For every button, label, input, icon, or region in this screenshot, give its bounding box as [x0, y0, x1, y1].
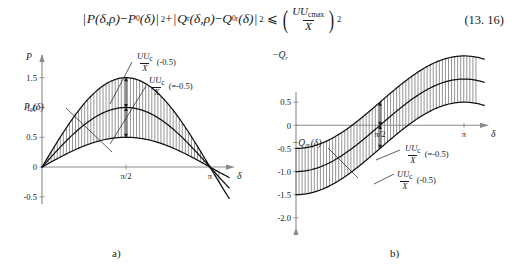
x-tick-label: π [462, 129, 467, 139]
caption-b: b) [390, 247, 399, 259]
annotation-num-text: UU [137, 51, 149, 61]
numerator-subscript: cmax [308, 10, 324, 19]
y-tick-label: 0 [287, 121, 291, 131]
caption-a: a) [112, 247, 121, 259]
y-tick-label: 0 [33, 162, 37, 172]
x-axis-label: δ [237, 170, 242, 181]
annotation-value: (-0.5) [416, 175, 436, 185]
equation-expression: | P (δ,ρ) − P0(δ) |2 + | Qr(δ,ρ) − Q0r(δ… [82, 6, 341, 32]
symbol-P0: P [128, 11, 136, 27]
P0-args: (δ) [140, 11, 155, 27]
annotation-numerator: UUc [403, 144, 423, 155]
minus-2: − [215, 11, 223, 27]
exponent-3: 2 [336, 14, 341, 24]
annotation-value: (-0.5) [156, 57, 176, 67]
y-tick-label: -1.5 [277, 190, 291, 200]
annotation-num-text: UU [397, 169, 409, 179]
minus-1: − [120, 11, 128, 27]
equation-row: | P (δ,ρ) − P0(δ) |2 + | Qr(δ,ρ) − Q0r(δ… [0, 4, 512, 40]
curve-label: P₀(δ) [23, 102, 44, 113]
annotation-denominator: X [140, 63, 149, 73]
y-tick-label: -2.0 [277, 213, 291, 223]
curve-P0(delta) [42, 107, 229, 187]
annotation-num-subscript: c [409, 172, 412, 181]
y-tick-label: 1.5 [26, 73, 37, 83]
annotation-upper-gap-b: UUc X (=-0.5) [402, 144, 449, 165]
annotation-numerator: UUc [147, 76, 167, 87]
annotation-value: (=-0.5) [168, 81, 193, 91]
annotation-num-text: UU [405, 143, 417, 153]
plus-sign: + [165, 11, 173, 27]
y-tick-label: 0.5 [26, 132, 37, 142]
annotation-denominator: X [152, 87, 161, 97]
annotation-fraction: UUc X [395, 170, 415, 191]
Q-args: (δ,ρ) [190, 11, 215, 27]
x-tick-label: π/2 [120, 171, 131, 181]
annotation-num-subscript: c [417, 146, 420, 155]
y-axis-label: −Qr [272, 49, 288, 61]
x-axis-label: δ [491, 128, 496, 139]
fraction-denominator: X [303, 20, 314, 32]
y-tick-label: -1.0 [277, 167, 291, 177]
numerator-text: UU [292, 5, 308, 17]
fraction-numerator: UUcmax [290, 6, 326, 20]
P-args: (δ,ρ) [95, 11, 120, 27]
chart-a-svg: 1.51.00.50-0.5π/2πPδP₀(δ) [6, 44, 250, 244]
chart-a-axes [39, 54, 235, 204]
annotation-fraction: UUc X [147, 76, 167, 97]
figure-page: | P (δ,ρ) − P0(δ) |2 + | Qr(δ,ρ) − Q0r(δ… [0, 0, 512, 270]
symbol-P: P [87, 11, 95, 27]
y-tick-label: -0.5 [277, 144, 291, 154]
annotation-num-subscript: c [149, 54, 152, 63]
annotation-fraction: UUc X [403, 144, 423, 165]
chart-b-tick-labels: -2.0-1.5-1.0-0.500.5π/2π−Qrδ−Q₀ᵣ(δ) [272, 49, 496, 223]
less-than-or-equal-sign: ⩽ [264, 11, 281, 27]
annotation-upper-gap-a: UUc X (-0.5) [134, 52, 176, 73]
annotation-denominator: X [408, 155, 417, 165]
annotation-num-subscript: c [161, 78, 164, 87]
annotation-lower-gap-b: UUc X (-0.5) [394, 170, 436, 191]
symbol-Q0r: Q [222, 11, 232, 27]
chart-a-tick-labels: 1.51.00.50-0.5π/2πPδP₀(δ) [23, 51, 242, 202]
annotation-fraction: UUc X [135, 52, 155, 73]
chart-b-svg: -2.0-1.5-1.0-0.500.5π/2π−Qrδ−Q₀ᵣ(δ) [248, 44, 510, 244]
annotation-numerator: UUc [135, 52, 155, 63]
equation-number: (13. 16) [464, 13, 504, 28]
chart-b-container: -2.0-1.5-1.0-0.500.5π/2π−Qrδ−Q₀ᵣ(δ) UUc … [248, 44, 510, 244]
annotation-numerator: UUc [395, 170, 415, 181]
symbol-Q: Q [177, 11, 187, 27]
x-tick-label: π [208, 171, 213, 181]
fraction-UUcmax-over-X: UUcmax X [290, 6, 326, 32]
annotation-lower-gap-a: UUc X (=-0.5) [146, 76, 193, 97]
chart-b-axes [293, 92, 489, 235]
annotation-value: (=-0.5) [424, 149, 449, 159]
chart-a-curves [42, 78, 229, 199]
y-tick-label: -0.5 [23, 192, 37, 202]
y-tick-label: 0.5 [280, 97, 291, 107]
Q0r-args: (δ) [238, 11, 253, 27]
y-axis-label: P [25, 51, 32, 62]
annotation-num-text: UU [149, 75, 161, 85]
chart-a-container: 1.51.00.50-0.5π/2πPδP₀(δ) UUc X (-0.5) U… [6, 44, 250, 244]
annotation-denominator: X [400, 181, 409, 191]
curve-label: −Q₀ᵣ(δ) [292, 138, 321, 149]
